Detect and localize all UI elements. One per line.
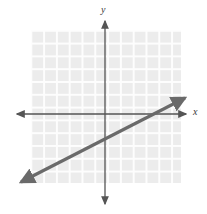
y-axis-label: y: [101, 5, 105, 15]
x-axis-label: x: [193, 107, 197, 117]
plotted-line-series: [21, 98, 185, 182]
graph-figure: y x: [0, 0, 207, 214]
plot-canvas: [0, 0, 207, 214]
